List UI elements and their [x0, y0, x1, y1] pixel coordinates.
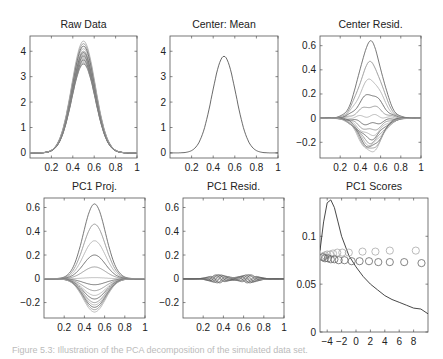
- y-tick-label: 0.6: [26, 202, 40, 213]
- x-tick-label: 0.4: [216, 322, 230, 333]
- curve: [30, 54, 137, 153]
- y-tick-label: 0: [173, 273, 179, 284]
- curve: [320, 118, 421, 136]
- figure-canvas: Raw Data0.20.40.60.8101234Center: Mean0.…: [0, 0, 443, 359]
- curve: [30, 64, 137, 153]
- x-tick-label: 0.6: [87, 162, 101, 173]
- y-tick-label: 1: [20, 122, 26, 133]
- x-tick-label: 0.2: [44, 162, 58, 173]
- axes-frame: [320, 198, 428, 332]
- curve: [44, 279, 145, 296]
- plot-area: [319, 200, 428, 314]
- y-tick-label: 0.1: [302, 231, 316, 242]
- panel-bottom-middle: PC1 Resid.0.20.40.60.810.60.40.20−0.2: [159, 180, 287, 333]
- curve: [320, 79, 421, 118]
- plot-area: [44, 204, 145, 312]
- x-tick-label: 0.6: [237, 322, 251, 333]
- x-tick-label: 0.8: [118, 322, 132, 333]
- score-marker: [418, 260, 425, 267]
- y-tick-label: 0.4: [302, 64, 316, 75]
- y-tick-label: 0.2: [165, 250, 179, 261]
- x-tick-label: 0.8: [109, 162, 123, 173]
- x-tick-label: −4: [321, 336, 333, 347]
- x-tick-label: 0.4: [353, 162, 367, 173]
- panel-top-right: Center Resid.0.20.40.60.810.60.40.20−0.2: [296, 18, 424, 173]
- axes-frame: [170, 36, 278, 158]
- curve: [30, 53, 137, 153]
- y-tick-label: 0: [310, 113, 316, 124]
- y-tick-label: 0: [20, 147, 26, 158]
- x-tick-label: 0.8: [249, 162, 263, 173]
- panel-title: Raw Data: [60, 18, 106, 30]
- curve: [44, 279, 145, 285]
- x-tick-label: 1: [142, 322, 148, 333]
- score-marker: [375, 259, 382, 266]
- y-tick-label: 4: [160, 46, 166, 57]
- figure-caption: Figure 5.3: Illustration of the PCA deco…: [12, 345, 308, 355]
- x-tick-label: 4: [382, 336, 388, 347]
- x-tick-label: 1: [418, 162, 424, 173]
- score-marker: [348, 258, 355, 265]
- x-tick-label: 0.8: [257, 322, 271, 333]
- x-tick-label: 0.2: [57, 322, 71, 333]
- x-tick-label: 0.6: [374, 162, 388, 173]
- curve: [30, 56, 137, 153]
- curve: [320, 118, 421, 147]
- x-tick-label: 0.4: [77, 322, 91, 333]
- x-tick-label: 0.4: [66, 162, 80, 173]
- y-tick-label: 2: [160, 97, 166, 108]
- curve: [44, 224, 145, 279]
- plot-area: [170, 56, 278, 153]
- curve: [30, 46, 137, 153]
- curve: [320, 61, 421, 118]
- score-marker: [386, 247, 393, 254]
- panel-top-left: Raw Data0.20.40.60.8101234: [20, 18, 140, 173]
- x-tick-label: 0.6: [228, 162, 242, 173]
- plot-area: [183, 275, 284, 283]
- curve: [44, 279, 145, 299]
- y-tick-label: −0.2: [20, 297, 40, 308]
- curve: [30, 58, 137, 153]
- panel-title: PC1 Resid.: [207, 180, 260, 192]
- curve: [44, 241, 145, 279]
- axes-frame: [183, 198, 284, 318]
- score-marker: [372, 248, 379, 255]
- curve: [30, 60, 137, 153]
- y-tick-label: −0.2: [159, 297, 179, 308]
- y-tick-label: 0: [310, 327, 316, 338]
- panel-title: PC1 Proj.: [72, 180, 117, 192]
- y-tick-label: 0.6: [165, 202, 179, 213]
- curve: [30, 61, 137, 152]
- curve: [44, 204, 145, 279]
- panel-bottom-right: PC1 Scores−4−2024680.10.050: [297, 180, 428, 347]
- x-tick-label: 0.2: [333, 162, 347, 173]
- x-tick-label: 2: [368, 336, 374, 347]
- x-tick-label: 0.8: [394, 162, 408, 173]
- plot-area: [320, 41, 421, 152]
- x-tick-label: 1: [134, 162, 140, 173]
- curve: [44, 267, 145, 279]
- curve: [170, 56, 278, 153]
- x-tick-label: 1: [281, 322, 287, 333]
- score-marker: [401, 259, 408, 266]
- y-tick-label: 3: [160, 71, 166, 82]
- y-tick-label: 3: [20, 71, 26, 82]
- panel-title: Center: Mean: [192, 18, 256, 30]
- x-tick-label: 0: [353, 336, 359, 347]
- panel-top-middle: Center: Mean0.20.40.60.8101234: [160, 18, 281, 173]
- panel-title: PC1 Scores: [346, 180, 402, 192]
- x-tick-label: 0.2: [185, 162, 199, 173]
- y-tick-label: −0.2: [296, 137, 316, 148]
- plot-area: [30, 41, 137, 153]
- density-curve: [320, 200, 428, 314]
- y-tick-label: 0.6: [302, 40, 316, 51]
- x-tick-label: 1: [275, 162, 281, 173]
- score-marker: [386, 259, 393, 266]
- score-marker: [359, 248, 366, 255]
- curve: [30, 51, 137, 153]
- axes-frame: [30, 36, 137, 158]
- y-tick-label: 0.2: [26, 250, 40, 261]
- score-marker: [365, 258, 372, 265]
- panel-bottom-left: PC1 Proj.0.20.40.60.810.60.40.20−0.2: [20, 180, 148, 333]
- y-tick-label: 4: [20, 46, 26, 57]
